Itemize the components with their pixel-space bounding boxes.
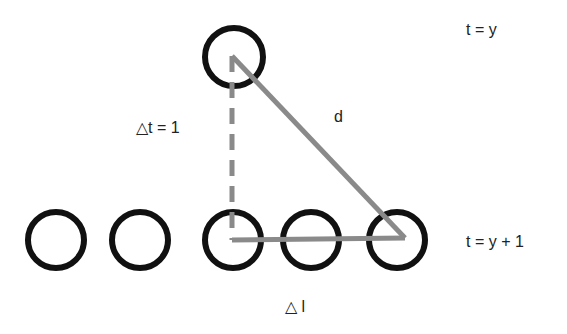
diagram-canvas — [0, 0, 567, 334]
bottom-circle — [28, 212, 84, 268]
top-time-label: t = y — [466, 21, 497, 39]
delta-t-label: △t = 1 — [136, 118, 180, 137]
delta-l-label: △ l — [285, 297, 305, 316]
delta-l-line — [232, 238, 405, 240]
distance-label: d — [334, 108, 343, 126]
bottom-circle — [112, 212, 168, 268]
bottom-time-label: t = y + 1 — [466, 233, 524, 251]
